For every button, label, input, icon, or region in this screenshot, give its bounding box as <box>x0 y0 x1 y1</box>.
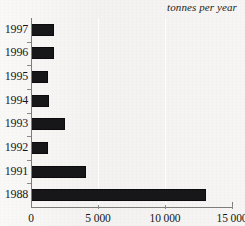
bar-chart: tonnes per year 199719961995199419931992… <box>0 0 245 226</box>
bar-row <box>31 160 232 184</box>
x-axis-tick-label: 15 000 <box>216 212 245 224</box>
bar-row <box>31 89 232 113</box>
bar-row <box>31 65 232 89</box>
y-axis-label: 1994 <box>5 93 28 108</box>
bar <box>31 118 65 130</box>
bar <box>31 142 48 154</box>
y-axis-label: 1997 <box>5 22 28 37</box>
y-axis-label: 1993 <box>5 116 28 131</box>
x-axis-tick <box>98 205 99 209</box>
bar <box>31 95 49 107</box>
bar-row <box>31 136 232 160</box>
bar-row <box>31 183 232 207</box>
plot-area <box>31 18 232 207</box>
y-axis-label: 1992 <box>5 140 28 155</box>
y-axis-label: 1988 <box>5 187 28 202</box>
x-axis-labels: 05 00010 00015 000 <box>31 209 233 226</box>
bar <box>31 189 206 201</box>
bar-row <box>31 42 232 66</box>
y-axis-label: 1996 <box>5 45 28 60</box>
x-axis-tick <box>165 205 166 209</box>
bar <box>31 166 86 178</box>
y-axis-label: 1991 <box>5 164 28 179</box>
x-axis-tick-label: 10 000 <box>149 212 180 224</box>
y-axis-labels: 19971996199519941993199219911988 <box>0 18 28 207</box>
x-axis-line <box>31 207 233 208</box>
x-axis-tick-label: 0 <box>28 212 34 224</box>
x-axis-tick-label: 5 000 <box>85 212 110 224</box>
bar <box>31 24 54 36</box>
bar <box>31 71 48 83</box>
x-axis-tick <box>232 205 233 209</box>
y-axis-label: 1995 <box>5 69 28 84</box>
bar-row <box>31 18 232 42</box>
y-axis-line <box>31 18 32 208</box>
bar <box>31 47 54 59</box>
bar-row <box>31 113 232 137</box>
chart-title: tonnes per year <box>167 1 237 13</box>
